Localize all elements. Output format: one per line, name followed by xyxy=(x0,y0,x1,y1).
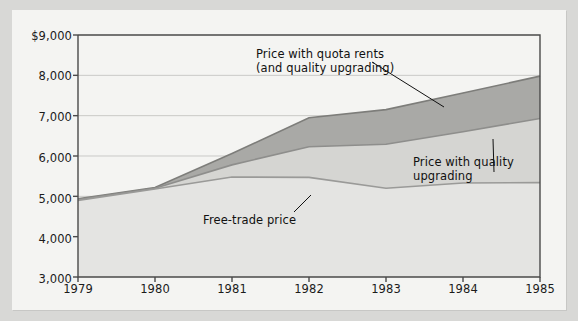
xtick-label: 1985 xyxy=(514,282,566,296)
xtick-label: 1980 xyxy=(129,282,181,296)
annotation-line-1: Price with quality xyxy=(413,155,514,169)
xtick-label: 1984 xyxy=(437,282,489,296)
annotation-line-2: upgrading xyxy=(413,169,514,183)
xtick-label: 1979 xyxy=(52,282,104,296)
annotation-line-1: Price with quota rents xyxy=(256,47,394,61)
annotation-line-1: Free-trade price xyxy=(203,213,296,227)
free-trade-price-annotation: Free-trade price xyxy=(203,213,296,227)
xtick-label: 1981 xyxy=(206,282,258,296)
quality-upgrading-annotation: Price with quality upgrading xyxy=(413,155,514,183)
ytick-label: 8,000 xyxy=(0,69,72,83)
ytick-label: 4,000 xyxy=(0,232,72,246)
quota-rents-annotation: Price with quota rents (and quality upgr… xyxy=(256,47,394,75)
annotation-line-2: (and quality upgrading) xyxy=(256,61,394,75)
xtick-label: 1982 xyxy=(283,282,335,296)
ytick-label: 6,000 xyxy=(0,151,72,165)
ytick-label: 7,000 xyxy=(0,110,72,124)
ytick-label: 5,000 xyxy=(0,192,72,206)
xtick-label: 1983 xyxy=(360,282,412,296)
figure-container: $9,000 8,000 7,000 6,000 5,000 4,000 3,0… xyxy=(0,0,578,321)
ytick-label: $9,000 xyxy=(0,29,72,43)
